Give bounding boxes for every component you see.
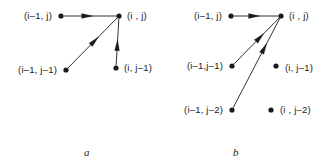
panel-a: a (i–1, j)(i , j)(i–1, j–1)(i, j–1) [0,0,164,168]
edge-b-steep-diagonal [233,18,280,107]
panel-a-caption: a [84,147,90,158]
edge-a-diagonal [68,18,117,68]
node-label-i-jm2: (i , j–2) [280,105,311,115]
panel-b-caption: b [233,147,239,158]
graph-node-dot [63,67,68,72]
graph-node-dot [268,107,273,112]
graph-node-dot [113,65,118,70]
edge-a-horizontal [64,14,117,19]
graph-node-dot [58,13,63,18]
panel-a-graph [0,0,164,168]
edge-a-vertical [115,19,120,66]
node-label-im1-jm2: (i–1, j–2) [184,105,223,115]
node-label-im1-j: (i–1, j) [194,11,222,21]
node-label-im1-jm1: (i–1, j–1) [18,65,57,75]
node-label-im1-jm1: (i–1,j–1) [187,61,223,71]
node-label-i-jm1: (i, j–1) [124,63,152,73]
edge-b-diagonal [234,18,279,64]
panel-b-graph [163,0,327,168]
graph-node-dot [273,63,278,68]
graph-node-dot [278,13,283,18]
edge-b-horizontal [234,14,279,19]
node-label-im1-j: (i–1, j) [24,11,52,21]
graph-node-dot [229,63,234,68]
panel-b: b (i–1, j)(i , j)(i–1,j–1)(i, j–1)(i–1, … [163,0,327,168]
node-label-i-j: (i , j) [127,11,147,21]
graph-node-dot [229,107,234,112]
node-label-i-j: (i , j) [289,11,309,21]
graph-node-dot [116,13,121,18]
node-label-i-jm1: (i, j–1) [285,63,313,73]
graph-node-dot [228,13,233,18]
figure-canvas: a (i–1, j)(i , j)(i–1, j–1)(i, j–1) b (i… [0,0,327,168]
